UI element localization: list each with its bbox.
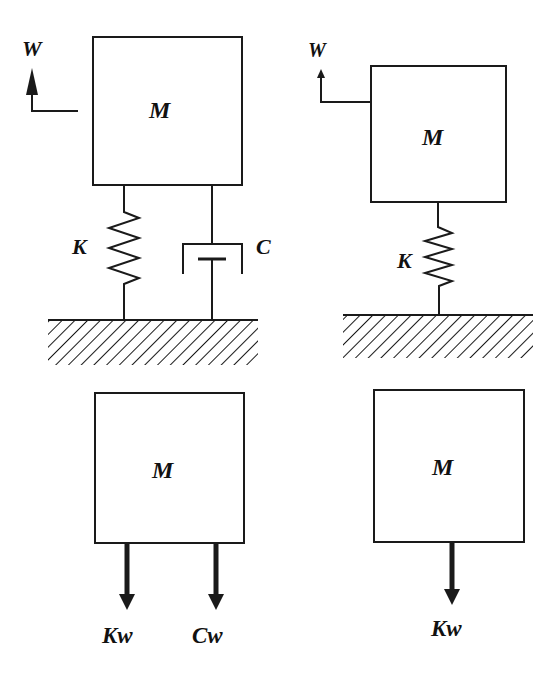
right-spring — [425, 202, 452, 315]
right-fbd-mass-label: M — [432, 455, 453, 479]
right-fbd-force-kw: Kw — [431, 617, 462, 640]
right-fbd-kw-arrowhead-icon — [444, 589, 460, 605]
left-input-arrow — [32, 80, 78, 111]
left-damper — [183, 185, 242, 320]
right-system — [317, 66, 533, 358]
left-fbd-force-kw: Kw — [102, 624, 133, 647]
left-input-label: W — [22, 38, 42, 60]
left-damper-label: C — [256, 236, 271, 258]
right-spring-label: K — [397, 250, 412, 272]
left-fbd-kw-arrowhead-icon — [119, 594, 135, 610]
left-spring — [109, 185, 139, 320]
left-fbd-mass-label: M — [152, 458, 173, 482]
right-input-arrow — [321, 75, 371, 102]
right-ground — [343, 315, 533, 358]
right-input-arrowhead-icon — [317, 69, 325, 78]
left-mass-label: M — [149, 98, 170, 122]
left-input-arrowhead-icon — [26, 68, 38, 95]
left-ground — [48, 320, 258, 365]
left-fbd-cw-arrowhead-icon — [208, 594, 224, 610]
right-mass-label: M — [422, 125, 443, 149]
left-spring-label: K — [72, 236, 87, 258]
left-free-body — [95, 393, 244, 610]
right-free-body — [374, 390, 524, 605]
diagram-canvas — [0, 0, 553, 681]
left-fbd-force-cw: Cw — [192, 624, 223, 647]
left-system — [26, 37, 258, 365]
right-input-label: W — [308, 40, 326, 60]
